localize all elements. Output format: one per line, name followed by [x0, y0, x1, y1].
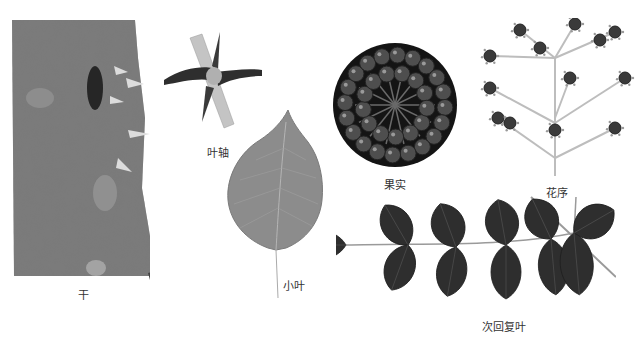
berry-highlight — [429, 132, 433, 136]
floret — [577, 77, 579, 79]
floret — [489, 118, 491, 120]
fruit-cluster-icon — [332, 42, 458, 168]
floret — [620, 84, 622, 86]
inflorescence-icon — [480, 18, 635, 178]
floret — [492, 111, 494, 113]
leaflet-blade — [517, 195, 566, 246]
berry-highlight — [344, 83, 348, 87]
berry-highlight — [388, 150, 392, 154]
floret — [582, 23, 584, 25]
berry-highlight — [408, 54, 412, 58]
berry — [400, 145, 416, 161]
flower-head — [484, 50, 496, 62]
flower-head — [569, 18, 581, 30]
berry-highlight — [341, 98, 345, 102]
berry — [402, 125, 418, 141]
berry-highlight — [365, 119, 369, 123]
floret — [549, 123, 551, 125]
leaflet — [433, 244, 471, 298]
berry — [419, 100, 435, 116]
berry-highlight — [359, 139, 363, 143]
berry — [345, 124, 361, 140]
floret — [606, 128, 608, 130]
berry-highlight — [422, 104, 426, 108]
floret — [513, 129, 515, 131]
floret — [622, 127, 624, 129]
leaflet — [491, 245, 521, 299]
floret — [517, 122, 519, 124]
floret — [485, 94, 487, 96]
berry-highlight — [349, 128, 353, 132]
leaflet — [517, 195, 566, 246]
berry-highlight — [369, 77, 373, 81]
floret — [618, 38, 620, 40]
floret — [591, 40, 593, 42]
floret — [610, 38, 612, 40]
floret — [511, 30, 513, 32]
berry — [361, 116, 377, 132]
floret — [607, 39, 609, 41]
floret — [616, 78, 618, 80]
flower-head — [534, 42, 546, 54]
trunk-label: 干 — [78, 286, 89, 302]
flower-head — [484, 82, 496, 94]
floret — [493, 62, 495, 64]
floret — [484, 49, 486, 51]
berry — [437, 99, 453, 115]
berry-highlight — [393, 51, 397, 55]
floret — [515, 36, 517, 38]
berry-highlight — [359, 105, 363, 109]
leaflet — [336, 230, 346, 260]
berry-highlight — [417, 118, 421, 122]
berry-highlight — [342, 114, 346, 118]
floret — [569, 18, 571, 19]
berry-highlight — [398, 69, 402, 73]
floret — [493, 94, 495, 96]
berry — [339, 110, 355, 126]
berry-highlight — [376, 129, 380, 133]
floret — [531, 48, 533, 50]
fruit-image — [332, 42, 458, 168]
floret — [484, 81, 486, 83]
berry — [388, 129, 404, 145]
floret — [603, 46, 605, 48]
floret — [501, 123, 503, 125]
berry-highlight — [382, 70, 386, 74]
floret — [594, 33, 596, 35]
berry-highlight — [420, 89, 424, 93]
berry — [385, 147, 401, 163]
berry-highlight — [377, 52, 381, 56]
flower-head — [609, 26, 621, 38]
flower-head — [594, 34, 606, 46]
flower-head — [514, 24, 526, 36]
floret — [527, 29, 529, 31]
berry — [417, 85, 433, 101]
floret — [595, 46, 597, 48]
flower-head — [609, 122, 621, 134]
leaflet-label: 小叶 — [283, 277, 305, 293]
floret — [632, 77, 634, 79]
floret — [619, 71, 621, 73]
floret — [535, 54, 537, 56]
berry-highlight — [422, 62, 426, 66]
floret — [481, 88, 483, 90]
floret — [481, 56, 483, 58]
compound-leaf-image — [336, 195, 616, 305]
floret — [570, 30, 572, 32]
floret — [578, 30, 580, 32]
floret — [497, 87, 499, 89]
floret — [504, 116, 506, 118]
leaflet — [377, 240, 422, 295]
leaflet-image — [226, 108, 326, 298]
berry-highlight — [432, 73, 436, 77]
floret — [566, 24, 568, 26]
floret — [562, 129, 564, 131]
berry-highlight — [437, 118, 441, 122]
berry — [374, 49, 390, 65]
fruit-label: 果实 — [384, 176, 406, 192]
floret — [628, 84, 630, 86]
berry-highlight — [373, 147, 377, 151]
berry — [389, 47, 405, 63]
berry-highlight — [363, 59, 367, 63]
berry — [435, 84, 451, 100]
